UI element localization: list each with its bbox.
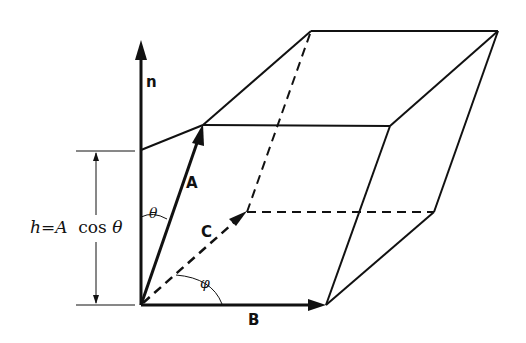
- parallelepiped-diagram: n A C B θ φ h=A cos θ: [0, 0, 526, 343]
- formula-cos: cos: [78, 217, 106, 237]
- height-formula: h=A cos θ: [28, 219, 124, 236]
- diagram-canvas: [0, 0, 526, 343]
- formula-eq: =: [41, 217, 55, 237]
- phi-arc: [176, 275, 222, 304]
- label-phi: φ: [200, 276, 210, 290]
- label-c: C: [201, 225, 212, 240]
- hidden-edges: [247, 31, 434, 212]
- formula-h: h: [30, 217, 41, 237]
- side-edges: [326, 31, 498, 305]
- plane-edge-line: [141, 125, 203, 150]
- label-theta: θ: [149, 206, 157, 220]
- formula-a: A: [55, 217, 67, 237]
- label-a: A: [186, 176, 198, 191]
- label-b: B: [248, 313, 259, 328]
- vector-b: [141, 299, 326, 311]
- top-face: [203, 31, 498, 126]
- label-n: n: [146, 75, 157, 90]
- formula-theta: θ: [112, 217, 122, 237]
